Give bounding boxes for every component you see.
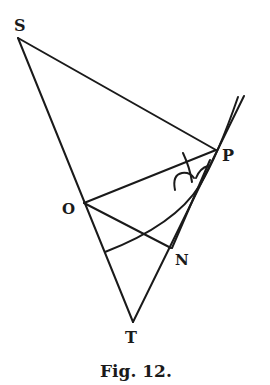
label-N: N: [175, 251, 189, 269]
curve-arc: [105, 97, 238, 252]
geometry-figure: S P O N T Fig. 12.: [0, 0, 270, 385]
figure-caption: Fig. 12.: [100, 361, 172, 381]
label-O: O: [62, 200, 75, 218]
label-P: P: [222, 146, 234, 165]
label-T: T: [125, 328, 137, 347]
label-S: S: [14, 16, 26, 35]
line-ST: [18, 38, 133, 322]
angle-mark-outer: [183, 153, 192, 182]
line-SP: [18, 38, 216, 150]
